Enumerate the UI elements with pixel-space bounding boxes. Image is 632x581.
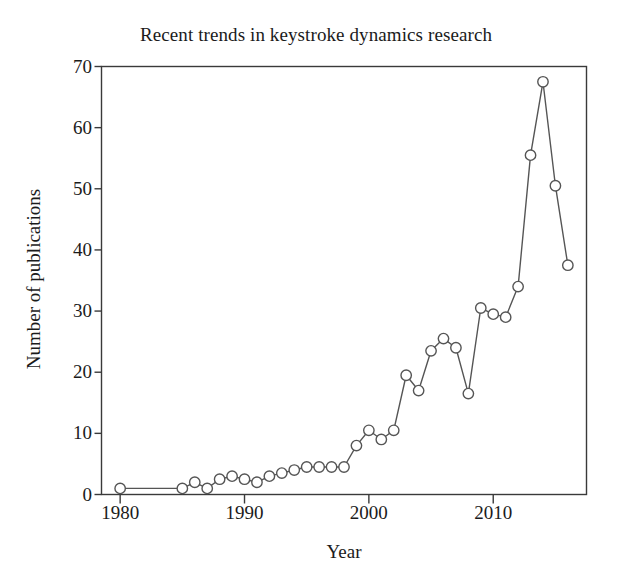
chart-title: Recent trends in keystroke dynamics rese… xyxy=(0,24,632,46)
data-point-marker xyxy=(314,462,324,472)
data-point-marker xyxy=(202,483,212,493)
data-point-marker xyxy=(190,477,200,487)
data-point-marker xyxy=(513,281,523,291)
data-point-marker xyxy=(115,483,125,493)
data-point-marker xyxy=(227,471,237,481)
data-point-marker xyxy=(389,425,399,435)
data-point-marker xyxy=(264,471,274,481)
data-point-marker xyxy=(177,483,187,493)
y-axis-ticks xyxy=(95,67,102,495)
data-point-marker xyxy=(426,346,436,356)
data-point-marker xyxy=(451,343,461,353)
data-point-marker xyxy=(239,474,249,484)
data-point-marker xyxy=(351,440,361,450)
data-point-marker xyxy=(550,181,560,191)
data-point-marker xyxy=(401,370,411,380)
data-point-marker xyxy=(277,468,287,478)
data-point-marker xyxy=(500,312,510,322)
data-point-marker xyxy=(364,425,374,435)
data-point-marker xyxy=(339,462,349,472)
data-point-marker xyxy=(326,462,336,472)
data-point-marker xyxy=(289,465,299,475)
data-point-marker xyxy=(438,333,448,343)
data-point-marker xyxy=(488,309,498,319)
data-point-marker xyxy=(214,474,224,484)
x-axis-label: Year xyxy=(101,541,587,563)
data-line-series xyxy=(120,82,568,489)
data-point-marker xyxy=(463,388,473,398)
data-point-marker xyxy=(538,77,548,87)
data-point-marker xyxy=(252,477,262,487)
plot-area xyxy=(0,0,632,581)
data-point-markers xyxy=(115,77,573,494)
data-point-marker xyxy=(376,434,386,444)
data-point-marker xyxy=(476,303,486,313)
data-point-marker xyxy=(525,150,535,160)
data-point-marker xyxy=(301,462,311,472)
data-point-marker xyxy=(413,385,423,395)
chart-figure: Recent trends in keystroke dynamics rese… xyxy=(0,0,632,581)
y-axis-label: Number of publications xyxy=(23,119,45,439)
plot-frame xyxy=(102,67,587,495)
data-point-marker xyxy=(563,260,573,270)
x-axis-ticks xyxy=(120,495,493,504)
